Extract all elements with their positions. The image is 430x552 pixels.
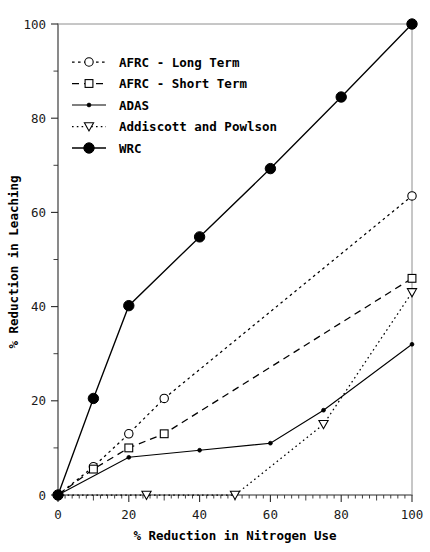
y-tick-label: 20: [31, 393, 46, 408]
data-point-marker: [407, 289, 416, 297]
data-point-marker: [408, 192, 416, 200]
series-line: [58, 278, 412, 495]
legend-item-wrc[interactable]: WRC: [72, 141, 142, 156]
plot-frame: [58, 24, 412, 495]
y-tick-label: 40: [31, 299, 46, 314]
y-axis-title: % Reduction in Leaching: [6, 175, 21, 348]
legend-item-afrc-long-term[interactable]: AFRC - Long Term: [72, 55, 240, 70]
x-tick-label: 40: [192, 507, 207, 522]
data-point-marker: [85, 80, 93, 88]
y-tick-label: 80: [31, 111, 46, 126]
x-tick-label: 80: [334, 507, 349, 522]
data-point-marker: [407, 19, 417, 29]
data-point-marker: [124, 300, 134, 310]
series-line: [58, 344, 412, 495]
x-axis-title: % Reduction in Nitrogen Use: [133, 528, 337, 543]
data-point-marker: [53, 490, 63, 500]
y-tick-label: 0: [38, 488, 46, 503]
data-point-marker: [410, 342, 414, 346]
y-tick-label: 60: [31, 205, 46, 220]
data-point-marker: [160, 394, 168, 402]
line-chart: 020406080100 020406080100 AFRC - Long Te…: [0, 0, 430, 552]
data-point-marker: [160, 430, 168, 438]
x-tick-label: 100: [401, 507, 424, 522]
data-point-marker: [265, 163, 275, 173]
series-addiscott-and-powlson: [58, 289, 417, 500]
data-point-marker: [88, 393, 98, 403]
series-line: [58, 24, 412, 495]
legend-label: WRC: [119, 141, 142, 156]
data-point-marker: [90, 465, 98, 473]
data-point-marker: [269, 441, 273, 445]
legend-label: Addiscott and Powlson: [119, 119, 277, 134]
chart-legend: AFRC - Long TermAFRC - Short TermADASAdd…: [72, 55, 277, 156]
data-point-marker: [408, 274, 416, 282]
data-point-marker: [127, 455, 131, 459]
x-tick-label: 0: [54, 507, 62, 522]
series-afrc-short-term: [58, 274, 416, 495]
data-point-marker: [194, 232, 204, 242]
legend-item-adas[interactable]: ADAS: [72, 98, 149, 113]
data-point-marker: [198, 448, 202, 452]
chart-figure: 020406080100 020406080100 AFRC - Long Te…: [0, 0, 430, 552]
y-axis-tick-labels: 020406080100: [23, 17, 46, 503]
data-point-marker: [85, 58, 93, 66]
legend-label: AFRC - Short Term: [119, 76, 247, 91]
legend-item-afrc-short-term[interactable]: AFRC - Short Term: [72, 76, 247, 91]
data-point-marker: [322, 408, 326, 412]
series-line: [58, 292, 412, 495]
data-point-marker: [125, 444, 133, 452]
data-point-marker: [336, 92, 346, 102]
legend-label: AFRC - Long Term: [119, 55, 240, 70]
legend-label: ADAS: [119, 98, 149, 113]
x-tick-label: 60: [263, 507, 278, 522]
x-axis-tick-labels: 020406080100: [54, 507, 423, 522]
series-line: [58, 196, 412, 495]
data-point-marker: [84, 143, 94, 153]
series-afrc-long-term: [58, 192, 416, 495]
x-tick-label: 20: [121, 507, 136, 522]
y-tick-label: 100: [23, 17, 46, 32]
y-axis-ticks: [51, 24, 58, 495]
data-point-marker: [87, 103, 91, 107]
legend-item-addiscott-and-powlson[interactable]: Addiscott and Powlson: [72, 119, 277, 134]
data-point-marker: [125, 430, 133, 438]
data-point-marker: [319, 421, 328, 429]
series-adas: [56, 342, 414, 497]
